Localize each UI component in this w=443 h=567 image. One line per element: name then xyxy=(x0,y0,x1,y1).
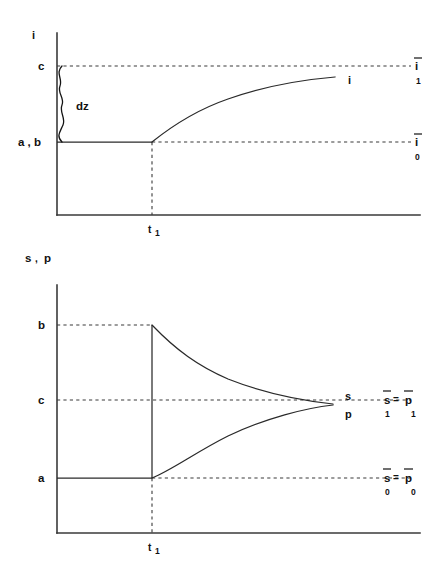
lower-xtick-t1-base: t xyxy=(148,542,152,553)
lower-curve-p xyxy=(152,405,333,478)
upper-xtick-t1-sub: 1 xyxy=(155,228,160,238)
upper-right-label-i0-base: i xyxy=(415,136,418,148)
lower-axis-title-separator: , xyxy=(35,253,38,264)
upper-right-label-i1-sub: 1 xyxy=(416,76,421,86)
lower-xtick-t1: t 1 xyxy=(148,542,160,556)
lower-right-label-top: s 1 = p 1 xyxy=(383,391,416,419)
lower-right-label-p1-base: p xyxy=(405,394,412,406)
upper-brace-dz xyxy=(59,66,64,142)
upper-curve-label-i: i xyxy=(348,74,351,86)
upper-annotation-dz: dz xyxy=(76,100,89,112)
lower-right-label-p0-base: p xyxy=(405,472,412,484)
lower-right-label-bottom: s 0 = p 0 xyxy=(383,469,416,497)
impulse-response-figure: i c a , b dz t 1 i i 1 i 0 xyxy=(0,0,443,567)
lower-curve-label-p: p xyxy=(345,408,352,420)
lower-axis-title-s: s xyxy=(25,252,31,264)
upper-right-label-i0: i 0 xyxy=(414,134,422,162)
lower-curve-label-s: s xyxy=(345,390,351,402)
upper-ytick-c: c xyxy=(38,60,45,72)
lower-ytick-a: a xyxy=(38,472,45,484)
upper-curve-i xyxy=(152,77,335,142)
lower-ytick-c: c xyxy=(38,394,45,406)
upper-xtick-t1: t 1 xyxy=(148,224,160,238)
lower-axis-title-p: p xyxy=(44,252,51,264)
upper-right-label-i0-sub: 0 xyxy=(415,152,420,162)
upper-right-label-i1-base: i xyxy=(415,60,418,72)
upper-axis-title: i xyxy=(32,29,35,41)
upper-panel: i c a , b dz t 1 i i 1 i 0 xyxy=(18,29,422,238)
upper-ytick-ab: a , b xyxy=(18,136,41,148)
lower-curve-s xyxy=(152,325,333,404)
lower-right-label-p0-sub: 0 xyxy=(411,487,416,497)
lower-panel: s , p b xyxy=(25,252,420,556)
lower-axis-title: s , p xyxy=(25,252,51,264)
lower-right-label-s0-sub: 0 xyxy=(385,487,390,497)
figure-container: i c a , b dz t 1 i i 1 i 0 xyxy=(0,0,443,567)
lower-xtick-t1-sub: 1 xyxy=(155,546,160,556)
lower-right-label-p1-sub: 1 xyxy=(411,409,416,419)
lower-right-label-s1-sub: 1 xyxy=(385,409,390,419)
lower-ytick-b: b xyxy=(38,319,45,331)
lower-right-label-equals-top: = xyxy=(393,394,399,405)
lower-right-label-s1-base: s xyxy=(384,394,390,406)
lower-right-label-equals-bottom: = xyxy=(393,472,399,483)
upper-right-label-i1: i 1 xyxy=(414,58,422,86)
lower-right-label-s0-base: s xyxy=(384,472,390,484)
upper-xtick-t1-base: t xyxy=(148,224,152,235)
